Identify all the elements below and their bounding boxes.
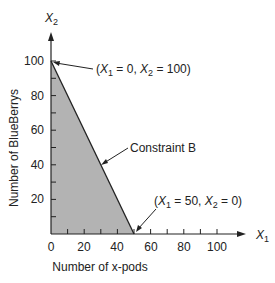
annotation-top-arrow-icon bbox=[53, 61, 60, 66]
y-axis-title: Number of BlueBerrys bbox=[7, 89, 21, 207]
constraint-pointer bbox=[104, 148, 128, 163]
x-tick-label: 40 bbox=[110, 240, 124, 254]
y-tick-label: 60 bbox=[31, 123, 45, 137]
annotation-bottom: (X1 = 50, X2 = 0) bbox=[154, 194, 242, 210]
chart: 100 80 60 40 20 0 20 40 60 80 100 Number… bbox=[0, 0, 275, 283]
y-tick-label: 80 bbox=[31, 89, 45, 103]
y-tick-label: 20 bbox=[31, 192, 45, 206]
x-tick-label: 0 bbox=[48, 240, 55, 254]
x-axis-title: Number of x-pods bbox=[52, 260, 147, 274]
x-tick-label: 100 bbox=[207, 240, 227, 254]
annotation-top: (X1 = 0, X2 = 100) bbox=[96, 62, 191, 78]
x-tick-label: 80 bbox=[177, 240, 191, 254]
x-tick-label: 60 bbox=[144, 240, 158, 254]
constraint-arrow-icon bbox=[101, 159, 108, 165]
y-axis-symbol: X2 bbox=[44, 11, 58, 27]
constraint-label: Constraint B bbox=[130, 141, 196, 155]
x-tick-label: 20 bbox=[77, 240, 91, 254]
y-tick-label: 100 bbox=[24, 54, 44, 68]
annotation-bottom-pointer bbox=[138, 209, 156, 229]
y-axis-arrow-icon bbox=[48, 32, 54, 41]
y-tick-label: 40 bbox=[31, 158, 45, 172]
annotation-top-pointer bbox=[56, 63, 93, 69]
x-axis-arrow-icon bbox=[237, 231, 246, 237]
x-axis-symbol: X1 bbox=[255, 228, 269, 244]
